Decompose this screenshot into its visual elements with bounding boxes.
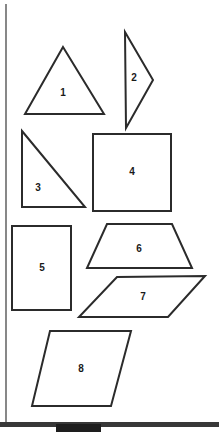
shape-group-3: 3 (22, 131, 85, 207)
shape-label-1: 1 (60, 87, 66, 98)
shape-group-5: 5 (12, 226, 71, 310)
shape-triangle-2 (125, 32, 153, 128)
scan-edge-strip (0, 422, 219, 427)
shape-group-8: 8 (32, 331, 131, 406)
shape-label-7: 7 (140, 291, 146, 302)
worksheet-page: 1 2 3 4 5 6 7 8 (0, 0, 219, 432)
shape-label-3: 3 (35, 182, 41, 193)
shape-label-5: 5 (39, 262, 45, 273)
shape-label-4: 4 (129, 166, 135, 177)
shape-canvas: 1 2 3 4 5 6 7 8 (0, 0, 219, 432)
shape-group-4: 4 (93, 134, 171, 211)
shape-label-2: 2 (131, 72, 137, 83)
scan-edge-block (56, 424, 101, 432)
shape-group-7: 7 (79, 276, 205, 317)
shape-triangle-1 (25, 47, 104, 114)
shape-group-2: 2 (125, 32, 153, 128)
shape-triangle-3 (22, 131, 85, 207)
shape-group-6: 6 (87, 224, 192, 268)
shape-group-1: 1 (25, 47, 104, 114)
shape-label-6: 6 (136, 243, 142, 254)
shape-label-8: 8 (78, 363, 84, 374)
